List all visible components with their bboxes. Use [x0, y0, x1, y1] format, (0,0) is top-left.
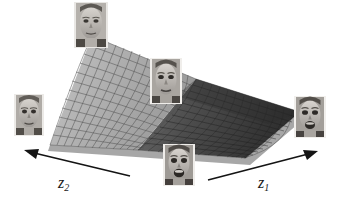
face-thumbnail-left [14, 94, 44, 136]
axis-label-z2: z2 [58, 175, 69, 191]
face-thumbnail-center [150, 58, 182, 104]
face-thumbnail-right [294, 96, 326, 138]
axis-label-z1-sub: 1 [264, 182, 269, 193]
face-thumbnail-bottom [163, 144, 195, 186]
axis-label-z2-sub: 2 [64, 182, 69, 193]
manifold-figure: z2 z1 [0, 0, 340, 211]
axis-label-z1: z1 [258, 175, 269, 191]
face-thumbnail-top [74, 2, 108, 48]
